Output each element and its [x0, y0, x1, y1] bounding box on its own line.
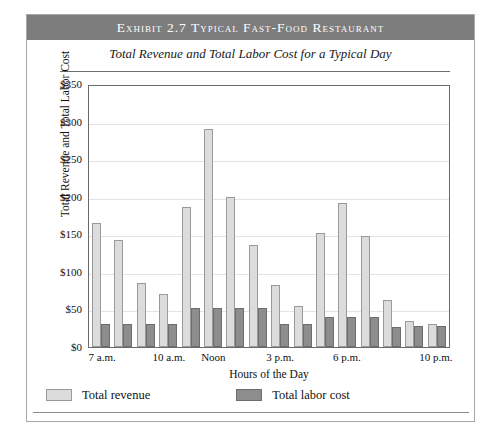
- bar-group: [204, 86, 222, 347]
- bar-group: [114, 86, 132, 347]
- plot-region: [88, 85, 450, 348]
- y-axis-tick-label: $300: [38, 116, 82, 128]
- legend-item-revenue: Total revenue: [46, 388, 150, 403]
- bar-revenue: [338, 203, 347, 347]
- bar-revenue: [271, 285, 280, 347]
- y-axis-tick-label: $0: [38, 341, 82, 353]
- bar-revenue: [316, 233, 325, 347]
- bar-revenue: [137, 283, 146, 347]
- y-axis-tick-label: $150: [38, 228, 82, 240]
- x-axis-tick-label: 7 a.m.: [89, 351, 116, 363]
- bar-group: [294, 86, 312, 347]
- bar-labor-cost: [235, 308, 244, 347]
- bar-revenue: [182, 207, 191, 347]
- bar-labor-cost: [123, 324, 132, 347]
- bar-groups: [89, 86, 449, 347]
- bar-group: [428, 86, 446, 347]
- y-axis-tick-label: $200: [38, 191, 82, 203]
- exhibit-figure: Exhibit 2.7 Typical Fast-Food Restaurant…: [0, 0, 501, 436]
- bar-labor-cost: [392, 327, 401, 347]
- bar-labor-cost: [213, 308, 222, 347]
- bar-labor-cost: [414, 326, 423, 347]
- bar-group: [137, 86, 155, 347]
- bar-revenue: [383, 300, 392, 347]
- bar-group: [92, 86, 110, 347]
- chart-area: Total Revenue and Total Labor Cost $0$50…: [0, 0, 501, 436]
- x-axis-tick-label: Noon: [201, 351, 225, 363]
- bar-revenue: [294, 306, 303, 347]
- bar-revenue: [428, 324, 437, 347]
- y-axis-label: Total Revenue and Total Labor Cost: [59, 9, 71, 259]
- bar-revenue: [204, 129, 213, 347]
- legend-swatch-labor: [236, 389, 262, 401]
- bar-revenue: [226, 197, 235, 347]
- bar-revenue: [405, 321, 414, 347]
- x-axis-tick-label: 10 a.m.: [153, 351, 186, 363]
- bar-labor-cost: [258, 308, 267, 347]
- legend-label-labor: Total labor cost: [272, 388, 350, 403]
- x-axis-ticks: 7 a.m.10 a.m.Noon3 p.m.6 p.m.10 p.m.: [88, 351, 450, 367]
- y-axis-tick-label: $250: [38, 153, 82, 165]
- bar-labor-cost: [280, 324, 289, 347]
- legend-label-revenue: Total revenue: [82, 388, 150, 403]
- bar-revenue: [361, 236, 370, 347]
- legend-swatch-revenue: [46, 389, 72, 401]
- bar-revenue: [92, 223, 101, 347]
- x-axis-tick-label: 3 p.m.: [266, 351, 294, 363]
- bar-group: [271, 86, 289, 347]
- bar-group: [159, 86, 177, 347]
- bar-revenue: [249, 245, 258, 347]
- bar-labor-cost: [325, 317, 334, 347]
- bar-group: [383, 86, 401, 347]
- bar-labor-cost: [168, 324, 177, 347]
- bar-group: [182, 86, 200, 347]
- bar-revenue: [159, 294, 168, 347]
- bar-group: [338, 86, 356, 347]
- bar-group: [405, 86, 423, 347]
- bar-labor-cost: [437, 326, 446, 347]
- chart-legend: Total revenue Total labor cost: [46, 385, 376, 405]
- y-axis-tick-label: $50: [38, 303, 82, 315]
- x-axis-tick-label: 6 p.m.: [333, 351, 361, 363]
- bottom-rule: [33, 412, 469, 413]
- y-axis-tick-label: $100: [38, 266, 82, 278]
- bar-labor-cost: [347, 317, 356, 347]
- y-axis-tick-label: $350: [38, 78, 82, 90]
- bar-revenue: [114, 240, 123, 347]
- bar-labor-cost: [303, 324, 312, 347]
- bar-labor-cost: [191, 308, 200, 347]
- bar-group: [249, 86, 267, 347]
- legend-item-labor: Total labor cost: [236, 388, 350, 403]
- bar-labor-cost: [146, 324, 155, 347]
- bar-labor-cost: [370, 317, 379, 347]
- bar-group: [361, 86, 379, 347]
- bar-group: [226, 86, 244, 347]
- bar-labor-cost: [101, 324, 110, 347]
- x-axis-tick-label: 10 p.m.: [419, 351, 452, 363]
- x-axis-label: Hours of the Day: [88, 368, 450, 380]
- bar-group: [316, 86, 334, 347]
